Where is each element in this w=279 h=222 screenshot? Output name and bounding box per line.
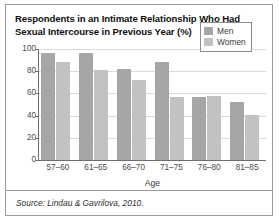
bar-groups <box>39 49 266 160</box>
bar-women <box>56 62 70 160</box>
legend-item: Men <box>204 26 246 36</box>
y-axis-tick-label: 20 <box>14 133 36 142</box>
legend-label: Men <box>217 26 233 36</box>
x-axis-tick-labels: 57–6061–6566–7071–7576–8081–85 <box>39 163 266 177</box>
legend-swatch-icon <box>204 38 213 46</box>
y-axis-tick-mark <box>35 71 38 72</box>
bar-men <box>192 97 206 160</box>
x-axis-tick-label: 61–65 <box>77 163 115 172</box>
bar-group <box>153 49 191 160</box>
plot-area: 020406080100 57–6061–6566–7071–7576–8081… <box>6 49 273 177</box>
bar-group <box>228 49 266 160</box>
bar-group <box>77 49 115 160</box>
bar-women <box>132 80 146 160</box>
bar-women <box>245 115 259 161</box>
bar-group <box>115 49 153 160</box>
bar-men <box>230 102 244 160</box>
y-axis-tick-label: 60 <box>14 89 36 98</box>
x-axis-tick-label: 66–70 <box>115 163 153 172</box>
x-axis-title: Age <box>39 178 266 188</box>
bar-women <box>207 96 221 160</box>
legend-item: Women <box>204 37 246 47</box>
y-axis-tick-label: 40 <box>14 111 36 120</box>
chart-legend: MenWomen <box>200 22 252 52</box>
y-axis-tick-label: 80 <box>14 67 36 76</box>
bar-group <box>39 49 77 160</box>
legend-swatch-icon <box>204 27 213 35</box>
source-note: Source: Lindau & Gavrilova, 2010. <box>16 198 144 208</box>
axes <box>38 49 266 161</box>
chart-figure: Respondents in an Intimate Relationship … <box>5 4 273 216</box>
y-axis-tick-mark <box>35 93 38 94</box>
x-axis-tick-label: 57–60 <box>39 163 77 172</box>
y-axis-tick-label: 100 <box>14 44 36 53</box>
y-axis-tick-label: 0 <box>14 155 36 164</box>
x-axis-tick-label: 81–85 <box>228 163 266 172</box>
bar-men <box>155 62 169 160</box>
y-axis-tick-mark <box>35 49 38 50</box>
bar-women <box>94 70 108 160</box>
x-axis-line <box>38 160 266 161</box>
bar-men <box>79 53 93 160</box>
source-divider <box>6 190 273 191</box>
y-axis-tick-mark <box>35 160 38 161</box>
y-axis-tick-mark <box>35 116 38 117</box>
y-axis-tick-mark <box>35 138 38 139</box>
bar-men <box>41 53 55 160</box>
bar-men <box>117 69 131 160</box>
x-axis-tick-label: 71–75 <box>152 163 190 172</box>
bar-women <box>170 97 184 160</box>
bar-group <box>190 49 228 160</box>
legend-label: Women <box>217 37 246 47</box>
y-axis-tick-labels: 020406080100 <box>14 49 36 161</box>
x-axis-tick-label: 76–80 <box>190 163 228 172</box>
